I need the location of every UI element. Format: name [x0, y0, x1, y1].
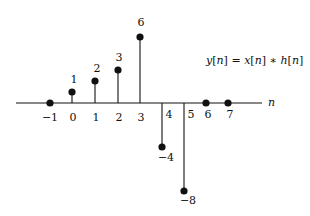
stem-plot: n −1 0 1 2 3 4 5 6 7 1 2 3 6 −4: [0, 0, 310, 216]
tick-label: 1: [93, 111, 100, 124]
value-labels: 1 2 3 6 −4 −8: [71, 16, 197, 207]
value-label: 2: [94, 62, 101, 75]
tick-label: 4: [166, 108, 173, 121]
tick-label: 7: [227, 108, 234, 121]
marker-n7: [224, 99, 231, 106]
x-tick-labels: −1 0 1 2 3 4 5 6 7: [42, 108, 234, 124]
tick-label: 5: [188, 108, 195, 121]
marker-n0: [68, 88, 75, 95]
equation: y[n] = x[n] ∗ h[n]: [205, 54, 303, 67]
tick-label: 6: [205, 108, 212, 121]
marker-n2: [114, 66, 121, 73]
value-label: −4: [158, 151, 174, 164]
marker-n1: [91, 77, 98, 84]
marker-n-1: [46, 99, 53, 106]
tick-label: −1: [42, 111, 58, 124]
tick-label: 3: [138, 111, 145, 124]
marker-n3: [136, 33, 143, 40]
value-label: 6: [138, 16, 145, 29]
marker-n6: [202, 99, 209, 106]
axis-label-n: n: [268, 96, 275, 109]
value-label: 1: [71, 73, 78, 86]
tick-label: 0: [70, 111, 77, 124]
marker-n4: [158, 143, 165, 150]
value-label: 3: [116, 51, 123, 64]
value-label: −8: [180, 194, 196, 207]
tick-label: 2: [116, 111, 123, 124]
